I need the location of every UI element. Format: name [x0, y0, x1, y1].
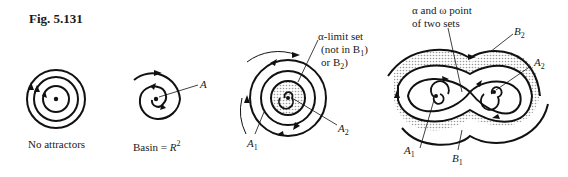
caption-basin-prefix: Basin = — [133, 141, 170, 153]
annotation-alpha-limit-3: or B2) — [321, 56, 348, 73]
sub: 2 — [521, 31, 525, 40]
label-point-a: A — [200, 78, 207, 91]
annotation-text: or B — [321, 56, 340, 68]
label-text: A — [338, 122, 345, 134]
label-a2-two: A2 — [534, 56, 545, 73]
label-text: B — [514, 25, 521, 37]
caption-basin-var: R — [170, 141, 177, 153]
label-text: A — [534, 56, 541, 68]
label-text: B — [452, 152, 459, 164]
label-a1-two: A1 — [404, 144, 415, 161]
annotation-text: (not in B — [321, 43, 360, 55]
label-a1: A1 — [247, 137, 258, 154]
sub: 1 — [411, 150, 415, 159]
label-a2: A2 — [338, 122, 349, 139]
sub: 2 — [340, 62, 344, 71]
phase-portraits-diagram — [0, 0, 568, 177]
sub: 1 — [254, 143, 258, 152]
panel-basin — [134, 70, 198, 119]
caption-basin-sup: 2 — [177, 139, 181, 148]
sub: 1 — [360, 49, 364, 58]
label-text: A — [404, 144, 411, 156]
label-text: A — [247, 137, 254, 149]
panel-no-attractors — [27, 70, 85, 128]
annotation-alpha-omega-1: α and ω point — [412, 4, 472, 17]
caption-no-attractors: No attractors — [28, 138, 85, 151]
sub: 2 — [345, 128, 349, 137]
label-b2: B2 — [514, 25, 525, 42]
sub: 2 — [541, 62, 545, 71]
panel-two-basins — [388, 28, 548, 150]
label-b1: B1 — [452, 152, 463, 169]
caption-basin: Basin = R2 — [133, 137, 181, 154]
annotation-alpha-limit-1: α-limit set — [318, 30, 363, 43]
sub: 1 — [459, 158, 463, 167]
annotation-alpha-omega-2: of two sets — [412, 17, 460, 30]
